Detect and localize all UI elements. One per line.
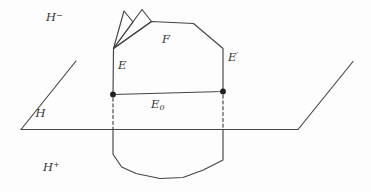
figure-page: H− F E E′ E0 H H+ (0, 0, 371, 192)
label-h-minus: H− (45, 10, 63, 24)
label-h-plus: H+ (42, 160, 60, 174)
label-e-zero: E0 (150, 97, 165, 113)
label-e-prime-sup: ′ (236, 50, 238, 59)
label-e-zero-sub: 0 (159, 103, 164, 112)
label-h: H (35, 106, 47, 120)
label-e-prime: E′ (227, 50, 238, 64)
polytope-hyperplane-diagram: H− F E E′ E0 H H+ (0, 0, 371, 192)
vertex-dot-right (220, 89, 226, 95)
label-h-plus-sup: + (53, 160, 60, 169)
label-f: F (161, 32, 171, 46)
plane-right-edge (298, 62, 353, 130)
polytope-lower-part (113, 130, 223, 179)
label-e: E (117, 58, 127, 72)
vertex-dot-left (110, 92, 116, 98)
label-h-minus-sup: − (56, 11, 63, 20)
vertex-spike-left (114, 11, 134, 49)
plane-left-edge (21, 61, 76, 130)
